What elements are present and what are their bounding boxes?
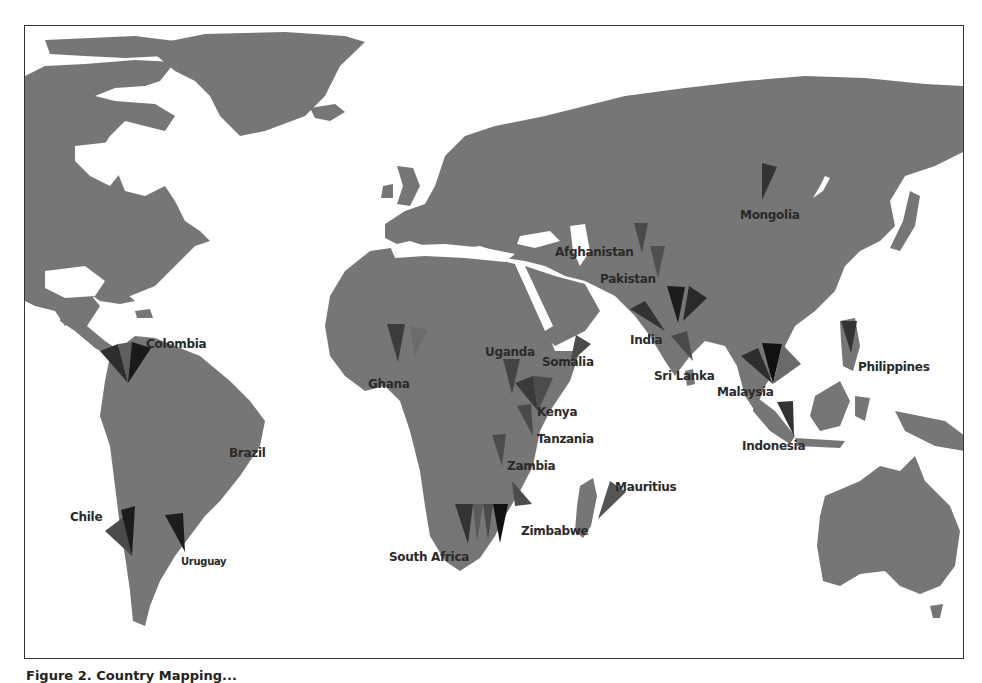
land-greenland	[145, 32, 365, 136]
map-frame: Colombia Brazil Chile Uruguay Ghana Ugan…	[24, 25, 964, 659]
label-sri-lanka: Sri Lanka	[654, 369, 715, 383]
figure-caption: Figure 2. Country Mapping...	[26, 668, 237, 683]
land-south-america	[100, 336, 265, 626]
label-zambia: Zambia	[507, 459, 555, 473]
land-masses	[25, 32, 964, 626]
label-south-africa: South Africa	[389, 550, 469, 564]
label-afghanistan: Afghanistan	[555, 245, 634, 259]
land-borneo	[810, 381, 850, 431]
label-zimbabwe: Zimbabwe	[521, 524, 588, 538]
label-uganda: Uganda	[485, 345, 535, 359]
label-brazil: Brazil	[229, 446, 266, 460]
label-india: India	[630, 333, 662, 347]
label-ghana: Ghana	[368, 377, 410, 391]
land-australia	[817, 456, 960, 594]
label-chile: Chile	[70, 510, 102, 524]
label-pakistan: Pakistan	[600, 272, 656, 286]
label-indonesia: Indonesia	[742, 439, 805, 453]
label-somalia: Somalia	[542, 355, 594, 369]
label-uruguay: Uruguay	[181, 556, 226, 567]
label-kenya: Kenya	[537, 405, 577, 419]
label-mauritius: Mauritius	[615, 480, 676, 494]
label-tanzania: Tanzania	[537, 432, 594, 446]
label-malaysia: Malaysia	[717, 385, 774, 399]
label-philippines: Philippines	[858, 360, 930, 374]
label-colombia: Colombia	[146, 337, 206, 351]
label-mongolia: Mongolia	[740, 208, 800, 222]
